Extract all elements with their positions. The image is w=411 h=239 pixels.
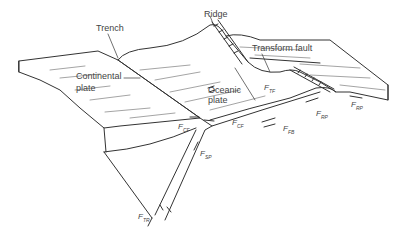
transform-fault-label: Transform fault xyxy=(252,44,312,53)
plate-tectonics-diagram xyxy=(0,0,411,239)
force-rp-right-label: FRP xyxy=(351,101,363,111)
continental-plate-outline xyxy=(19,51,200,128)
force-fb-label: FFB xyxy=(283,125,294,135)
continental-plate-label-line1: Continental xyxy=(76,72,122,81)
force-cf-right-label: FCF xyxy=(232,119,244,129)
continental-plate-label-line2: plate xyxy=(76,84,96,93)
trench-line xyxy=(118,60,200,118)
force-sp-label: FSP xyxy=(200,150,212,160)
force-rp-left-label: FRP xyxy=(316,110,328,120)
force-tr-label: FTR xyxy=(138,213,150,223)
oceanic-plate-label-line1: Oceanic xyxy=(208,86,241,95)
trench-label: Trench xyxy=(96,24,124,33)
oceanic-plate-label-line2: plate xyxy=(208,96,228,105)
force-cf-left-label: FCF xyxy=(178,123,190,133)
ridge-label: Ridge xyxy=(204,10,228,19)
force-tf-label: FTF xyxy=(264,84,275,94)
ridge-upper xyxy=(212,20,248,64)
